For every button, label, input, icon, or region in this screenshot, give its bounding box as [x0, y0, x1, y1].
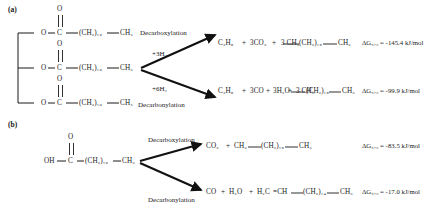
ester2-terminal: CH₃: [120, 64, 133, 72]
panel-a-decarboxylation-label: Decarboxylation: [140, 29, 187, 37]
ester2-carbonyl-c: C: [57, 64, 62, 72]
panel-b-decarbonylation-label: Decarbonylation: [148, 196, 195, 204]
panel-b-delta-g-1: ΔG₅₇₃ = -83.5 kJ/mol: [362, 142, 420, 149]
panel-b-delta-g-2: ΔG₅₇₃ = -17.0 kJ/mol: [362, 188, 420, 195]
panel-b-product2-water: H₂O: [229, 188, 242, 196]
panel-b-product1-alkane-tail: CH₃: [299, 142, 312, 150]
panel-a-product1-propane: C₃H₈: [218, 39, 233, 47]
ester1-carbonyl-c: C: [57, 29, 62, 37]
panel-a-product1-gas: 3CO₂: [250, 39, 266, 47]
acid-hydroxyl: OH: [44, 157, 55, 165]
ester1-chain: (CH₂)₁₆: [79, 29, 102, 37]
ester2-carbonyl-o: O: [57, 40, 62, 48]
figure-root: (a): [0, 0, 445, 222]
acid-carbonyl-c: C: [68, 157, 73, 165]
panel-a-product2-plus1: +: [242, 87, 246, 95]
panel-b-product2-alkene-chain: (CH₂)₁₄: [303, 188, 326, 196]
panel-a-bonds: [0, 0, 445, 118]
panel-b-product1-plus: +: [226, 142, 230, 150]
panel-b-product2-alkene-head: H₂C: [257, 188, 270, 196]
ester1-o-link: O: [41, 29, 46, 37]
ester1-carbonyl-o: O: [57, 5, 62, 13]
panel-b-product1-gas: CO₂: [206, 142, 219, 150]
ester3-carbonyl-c: C: [57, 99, 62, 107]
panel-a: (a): [0, 0, 445, 118]
panel-a-product1-alkane-chain: (CH₂)₁₅: [299, 39, 322, 47]
acid-chain: (CH₂)₁₆: [85, 157, 108, 165]
ester3-o-link: O: [41, 99, 46, 107]
ester2-o-link: O: [41, 64, 46, 72]
panel-b: (b): [0, 118, 445, 222]
panel-b-product2-alkene-tail: CH₃: [340, 188, 353, 196]
panel-a-product1-plus1: +: [242, 39, 246, 47]
acid-terminal: CH₃: [122, 157, 135, 165]
ester3-carbonyl-o: O: [57, 75, 62, 83]
panel-b-product2-plus2: +: [249, 188, 253, 196]
panel-b-product2-gas: CO: [206, 188, 216, 196]
panel-a-product2-alkane-tail: CH₃: [342, 87, 355, 95]
panel-b-product2-plus1: +: [221, 188, 225, 196]
panel-a-product2-plus3: +: [288, 87, 292, 95]
panel-a-delta-g-1: ΔG₅₇₃ = -145.4 kJ/mol: [362, 39, 423, 46]
acid-carbonyl-o: O: [68, 133, 73, 141]
panel-a-product2-plus2: +: [266, 87, 270, 95]
panel-a-decarbonylation-label: Decarbonylation: [138, 101, 185, 109]
ester3-chain: (CH₂)₁₆: [79, 99, 102, 107]
panel-a-product1-plus2: +: [272, 39, 276, 47]
panel-a-product1-alkane-head: 3 CH₃: [281, 39, 299, 47]
panel-a-product2-gas: 3CO: [250, 87, 264, 95]
panel-b-bonds: [0, 118, 445, 222]
panel-b-product1-alkane-head: CH₃: [234, 142, 247, 150]
ester2-chain: (CH₂)₁₆: [79, 64, 102, 72]
panel-b-decarboxylation-label: Decarboxylation: [148, 136, 195, 144]
panel-a-product1-alkane-tail: CH₃: [338, 39, 351, 47]
panel-b-product2-alkene-bond: =CH: [273, 188, 287, 196]
panel-a-product2-alkane-chain: (CH₂)₁₅: [306, 87, 329, 95]
panel-a-delta-g-2: ΔG₅₇₃ = -99.9 kJ/mol: [362, 87, 420, 94]
ester1-terminal: CH₃: [120, 29, 133, 37]
panel-a-decarboxylation-reagent: +3H₂: [152, 50, 167, 58]
ester3-terminal: CH₃: [120, 99, 133, 107]
panel-a-decarbonylation-reagent: +6H₂: [152, 85, 167, 93]
panel-b-product1-alkane-chain: (CH₂)₁₅: [261, 142, 284, 150]
panel-a-product2-propane: C₃H₈: [218, 87, 233, 95]
